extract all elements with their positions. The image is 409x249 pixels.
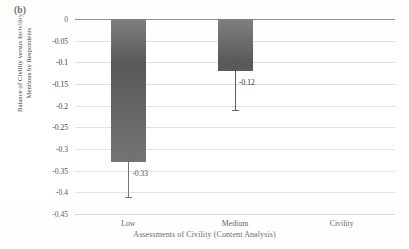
y-axis-tick-label: -0.3 (28, 145, 68, 154)
y-axis-tick-label: -0.05 (28, 36, 68, 45)
error-bar (235, 36, 236, 110)
error-bar-cap-upper (125, 127, 132, 128)
error-bar-cap-upper (232, 36, 239, 37)
error-bar (128, 127, 129, 196)
gridline (75, 171, 395, 172)
y-axis-tick-label: -0.45 (28, 210, 68, 219)
x-axis-tick-label: Medium (222, 219, 248, 228)
plot-area: 0-0.05-0.1-0.15-0.2-0.25-0.3-0.35-0.4-0.… (75, 19, 395, 214)
bar-value-label: -0.12 (239, 78, 255, 87)
x-axis-tick-label: Low (121, 219, 135, 228)
y-axis-title-line-1: Balance of Civility versus Incivility (15, 0, 24, 148)
x-axis-title: Assessments of Civility (Content Analysi… (0, 230, 409, 239)
gridline (75, 214, 395, 215)
y-axis-tick-label: -0.2 (28, 101, 68, 110)
error-bar-cap-lower (232, 110, 239, 111)
y-axis-tick-label: -0.4 (28, 188, 68, 197)
y-axis-tick-label: -0.15 (28, 80, 68, 89)
y-axis-tick-label: -0.1 (28, 58, 68, 67)
y-axis-tick-label: 0 (28, 15, 68, 24)
y-axis-tick-label: -0.35 (28, 166, 68, 175)
bar-value-label: -0.33 (132, 169, 148, 178)
x-axis-tick-label: Civility (330, 219, 354, 228)
error-bar-cap-lower (125, 197, 132, 198)
gridline (75, 192, 395, 193)
y-axis-tick-label: -0.25 (28, 123, 68, 132)
